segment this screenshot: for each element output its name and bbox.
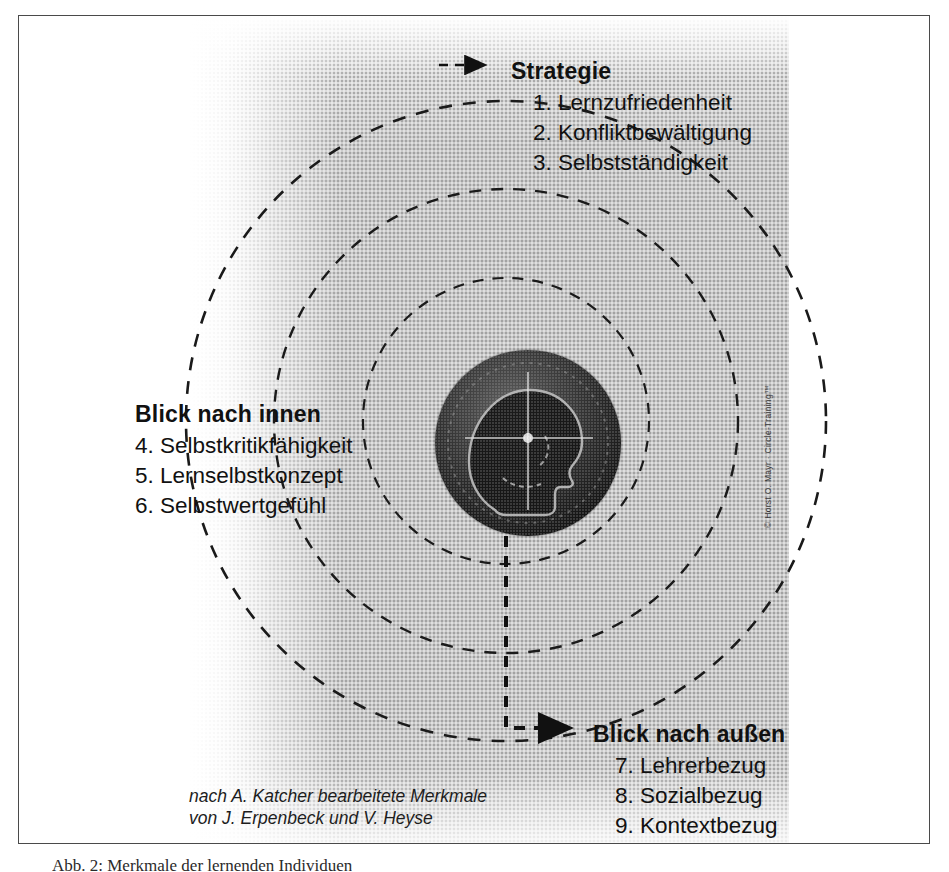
list-item: 6. Selbstwertgefühl — [135, 491, 353, 521]
attribution-line-2: von J. Erpenbeck und V. Heyse — [189, 807, 487, 829]
block-innen-items: 4. Selbstkritikfähigkeit 5. Lernselbstko… — [135, 431, 353, 521]
block-blick-nach-aussen: Blick nach außen 7. Lehrerbezug 8. Sozia… — [593, 721, 785, 841]
block-blick-nach-innen: Blick nach innen 4. Selbstkritikfähigkei… — [135, 401, 353, 521]
list-item: 4. Selbstkritikfähigkeit — [135, 431, 353, 461]
aussen-arrow-path — [506, 536, 570, 728]
attribution-note: nach A. Katcher bearbeitete Merkmale von… — [189, 785, 487, 829]
block-strategie: Strategie 1. Lernzufriedenheit 2. Konfli… — [511, 58, 752, 178]
attribution-line-1: nach A. Katcher bearbeitete Merkmale — [189, 785, 487, 807]
copyright-notice: © Horst O. Mayr · Circle-Training™ — [763, 348, 781, 528]
head-profile-with-crosshair-icon — [435, 350, 621, 536]
list-item: 3. Selbstständigkeit — [511, 148, 752, 178]
block-strategie-title: Strategie — [511, 58, 752, 85]
list-item: 1. Lernzufriedenheit — [511, 88, 752, 118]
figure-frame: Strategie 1. Lernzufriedenheit 2. Konfli… — [18, 15, 930, 844]
block-strategie-items: 1. Lernzufriedenheit 2. Konfliktbewältig… — [511, 88, 752, 178]
list-item: 9. Kontextbezug — [593, 811, 785, 841]
block-innen-title: Blick nach innen — [135, 401, 353, 428]
list-item: 2. Konfliktbewältigung — [511, 118, 752, 148]
block-aussen-items: 7. Lehrerbezug 8. Sozialbezug 9. Kontext… — [593, 751, 785, 841]
list-item: 8. Sozialbezug — [593, 781, 785, 811]
list-item: 7. Lehrerbezug — [593, 751, 785, 781]
block-aussen-title: Blick nach außen — [593, 721, 785, 748]
photo-grain — [435, 350, 621, 536]
list-item: 5. Lernselbstkonzept — [135, 461, 353, 491]
figure-caption: Abb. 2: Merkmale der lernenden Individue… — [52, 856, 352, 872]
